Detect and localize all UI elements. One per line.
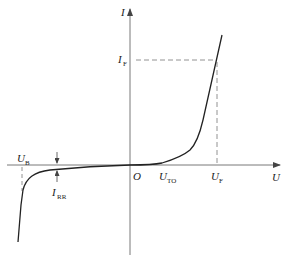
uf-label: U F — [211, 170, 223, 185]
svg-text:B: B — [25, 159, 30, 167]
diode-iv-diagram: I U O I F U F U TO U B I RR — [0, 0, 288, 265]
svg-text:RR: RR — [57, 193, 67, 201]
svg-text:F: F — [219, 177, 223, 185]
svg-text:F: F — [123, 60, 127, 68]
x-axis-label: U — [272, 171, 281, 183]
svg-text:TO: TO — [167, 177, 176, 185]
uto-label: U TO — [159, 170, 176, 185]
origin-label: O — [133, 170, 141, 182]
irr-label: I RR — [51, 186, 67, 201]
y-axis-label: I — [120, 6, 126, 18]
iv-curve — [18, 35, 222, 242]
if-label: I F — [117, 53, 127, 68]
